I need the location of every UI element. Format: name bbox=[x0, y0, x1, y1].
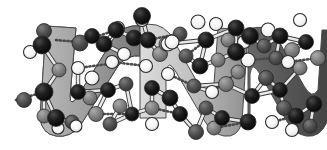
atom-c bbox=[71, 85, 86, 100]
atom-o bbox=[293, 61, 307, 75]
atom-h bbox=[85, 71, 99, 85]
atom-c bbox=[272, 28, 288, 44]
atom-c bbox=[35, 83, 53, 101]
atom-n bbox=[189, 125, 204, 140]
atom-n bbox=[259, 71, 274, 86]
atom-c bbox=[288, 108, 304, 124]
atom-h bbox=[210, 18, 223, 31]
atom-c bbox=[245, 89, 260, 104]
atom-c bbox=[299, 35, 314, 50]
atom-c bbox=[306, 96, 322, 112]
atom-c bbox=[48, 110, 65, 127]
atom-c bbox=[162, 90, 178, 106]
atom-c bbox=[242, 28, 259, 45]
atom-o bbox=[145, 101, 159, 115]
atom-o bbox=[113, 99, 127, 113]
atom-h bbox=[206, 86, 219, 99]
atom-n bbox=[269, 51, 283, 65]
atom-n bbox=[179, 49, 193, 63]
atom-n bbox=[257, 39, 271, 53]
atom-n bbox=[303, 119, 317, 133]
atom-c bbox=[173, 107, 188, 122]
atom-c bbox=[192, 58, 208, 74]
atom-h bbox=[286, 124, 299, 137]
atom-h bbox=[191, 15, 205, 29]
atom-h bbox=[266, 116, 279, 129]
atom-n bbox=[103, 117, 117, 131]
atom-c bbox=[273, 83, 288, 98]
atom-o bbox=[311, 51, 326, 66]
atom-n bbox=[187, 79, 201, 93]
atom-o bbox=[231, 65, 245, 79]
atom-o bbox=[52, 63, 66, 77]
atom-c bbox=[134, 8, 151, 25]
atom-c bbox=[101, 83, 116, 98]
atom-c bbox=[140, 32, 156, 48]
atom-h bbox=[140, 60, 153, 73]
atom-h bbox=[282, 56, 295, 69]
atom-c bbox=[228, 44, 245, 61]
atom-o bbox=[219, 77, 234, 92]
atom-c bbox=[33, 36, 51, 54]
atom-n bbox=[119, 77, 133, 91]
atom-h bbox=[70, 120, 82, 132]
atom-h bbox=[162, 68, 175, 81]
molecular-structure-figure bbox=[0, 0, 327, 150]
atom-h bbox=[146, 118, 159, 131]
atom-n bbox=[17, 93, 32, 108]
atom-c bbox=[125, 107, 139, 121]
atom-c bbox=[145, 81, 160, 96]
atom-h bbox=[72, 62, 85, 75]
atom-c bbox=[198, 32, 214, 48]
atom-o bbox=[89, 107, 104, 122]
atom-h bbox=[294, 14, 307, 27]
molecule-diagram bbox=[0, 0, 327, 150]
atom-c bbox=[240, 114, 256, 130]
atom-h bbox=[118, 48, 131, 61]
atom-n bbox=[199, 101, 213, 115]
atom-h bbox=[165, 35, 179, 49]
atom-h bbox=[106, 56, 119, 69]
atom-c bbox=[108, 22, 124, 38]
atom-c bbox=[126, 30, 142, 46]
atom-c bbox=[85, 29, 100, 44]
atom-c bbox=[215, 111, 230, 126]
atom-o bbox=[211, 53, 225, 67]
